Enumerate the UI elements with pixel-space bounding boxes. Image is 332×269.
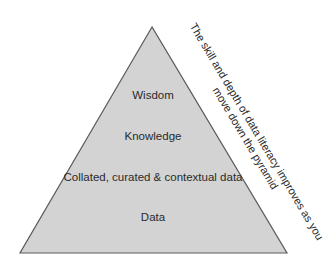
level-wisdom: Wisdom	[0, 90, 306, 102]
level-data: Data	[0, 212, 306, 224]
